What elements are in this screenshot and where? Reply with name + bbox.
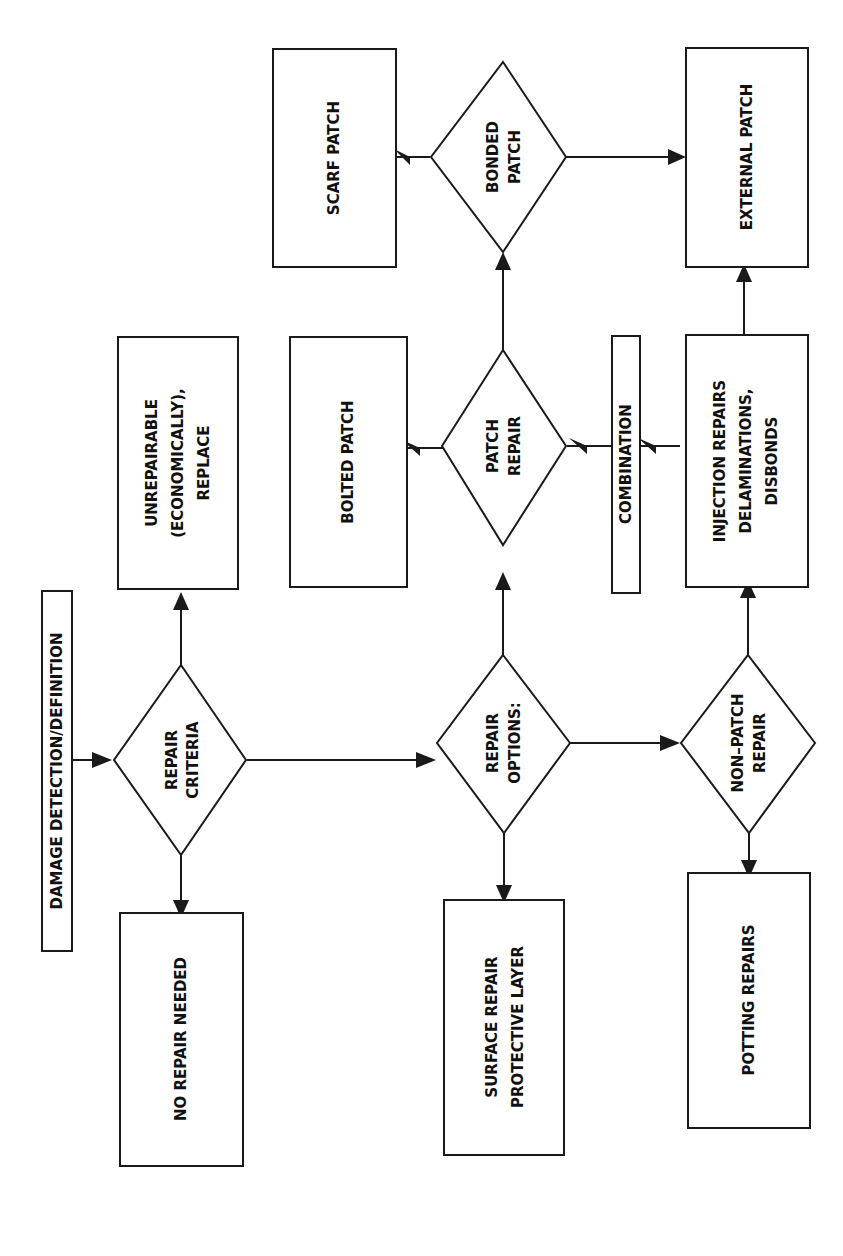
node-unrepairable: UNREPAIRABLE (ECONOMICALLY), REPLACE: [118, 337, 238, 589]
svg-text:CRITERIA: CRITERIA: [184, 721, 202, 799]
svg-text:UNREPAIRABLE: UNREPAIRABLE: [143, 399, 161, 527]
svg-text:(ECONOMICALLY),: (ECONOMICALLY),: [169, 388, 187, 538]
svg-text:BONDED: BONDED: [484, 121, 502, 193]
svg-text:OPTIONS:: OPTIONS:: [506, 702, 524, 784]
svg-text:SCARF PATCH: SCARF PATCH: [325, 101, 343, 215]
svg-text:DISBONDS: DISBONDS: [763, 417, 781, 506]
arrow-up-icon: [495, 572, 511, 590]
node-repair-options: REPAIR OPTIONS:: [437, 655, 570, 833]
damage-detection-label: DAMAGE DETECTION/DEFINITION: [48, 633, 66, 910]
node-potting-repairs: POTTING REPAIRS: [688, 873, 810, 1128]
svg-text:DELAMINATIONS,: DELAMINATIONS,: [737, 389, 755, 534]
svg-text:PROTECTIVE LAYER: PROTECTIVE LAYER: [509, 946, 527, 1109]
arrow-up-icon: [173, 592, 189, 610]
svg-text:NON–PATCH: NON–PATCH: [729, 693, 747, 792]
svg-text:PATCH: PATCH: [506, 130, 524, 184]
node-non-patch-repair: NON–PATCH REPAIR: [681, 655, 815, 833]
node-combination: COMBINATION: [612, 336, 640, 593]
svg-text:EXTERNAL PATCH: EXTERNAL PATCH: [738, 84, 756, 231]
svg-text:NO REPAIR NEEDED: NO REPAIR NEEDED: [172, 957, 190, 1121]
arrow-right-icon: [92, 752, 112, 768]
node-injection-repairs: INJECTION REPAIRS DELAMINATIONS, DISBOND…: [686, 335, 808, 587]
svg-text:COMBINATION: COMBINATION: [617, 404, 635, 524]
svg-text:REPAIR: REPAIR: [751, 712, 769, 773]
arrow-right-icon: [668, 149, 686, 165]
node-surface-repair: SURFACE REPAIR PROTECTIVE LAYER: [444, 900, 564, 1155]
svg-text:PATCH: PATCH: [484, 419, 502, 473]
node-bolted-patch: BOLTED PATCH: [290, 337, 407, 587]
svg-text:INJECTION REPAIRS: INJECTION REPAIRS: [711, 380, 729, 542]
node-repair-criteria: REPAIR CRITERIA: [114, 665, 246, 855]
svg-text:SURFACE REPAIR: SURFACE REPAIR: [483, 956, 501, 1098]
repair-flowchart: DAMAGE DETECTION/DEFINITION REPAIR CRITE…: [0, 0, 843, 1256]
node-scarf-patch: SCARF PATCH: [273, 49, 396, 267]
svg-text:REPLACE: REPLACE: [195, 425, 213, 500]
svg-text:REPAIR: REPAIR: [506, 415, 524, 476]
arrow-right-icon: [416, 752, 436, 768]
svg-text:POTTING REPAIRS: POTTING REPAIRS: [740, 924, 758, 1075]
svg-text:REPAIR: REPAIR: [484, 712, 502, 773]
arrow-up-icon: [495, 252, 511, 270]
node-bonded-patch: BONDED PATCH: [431, 62, 566, 252]
svg-text:BOLTED PATCH: BOLTED PATCH: [339, 400, 357, 523]
arrow-right-icon: [660, 735, 680, 751]
node-patch-repair: PATCH REPAIR: [442, 350, 566, 545]
node-no-repair-needed: NO REPAIR NEEDED: [120, 913, 243, 1166]
svg-text:REPAIR: REPAIR: [163, 729, 181, 790]
node-damage-detection: DAMAGE DETECTION/DEFINITION: [42, 591, 72, 951]
node-external-patch: EXTERNAL PATCH: [686, 48, 808, 267]
